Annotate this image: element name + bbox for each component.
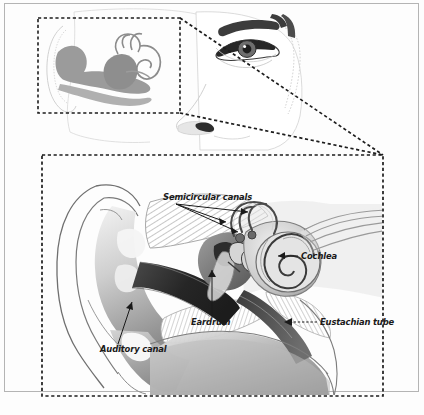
label-auditory-canal-text: Auditory canal (99, 344, 167, 354)
ear-anatomy-figure: Semicircular canals Cochlea Eardrum Eust… (0, 0, 424, 415)
mini-cochlea (137, 46, 161, 79)
label-eustachian-tube-text: Eustachian tube (320, 317, 395, 327)
ampulla-b (248, 231, 256, 239)
head-profile-panel (38, 9, 302, 150)
cross-section-art (57, 185, 392, 400)
figure-canvas: Semicircular canals Cochlea Eardrum Eust… (0, 0, 424, 415)
head-ear-anatomy-mini (47, 26, 160, 112)
ampulla-a (236, 234, 245, 243)
label-eardrum-text: Eardrum (191, 317, 231, 327)
mini-semicircular-canals (116, 34, 142, 54)
label-cochlea-text: Cochlea (301, 251, 337, 261)
label-semicircular-canals-text: Semicircular canals (163, 192, 252, 202)
